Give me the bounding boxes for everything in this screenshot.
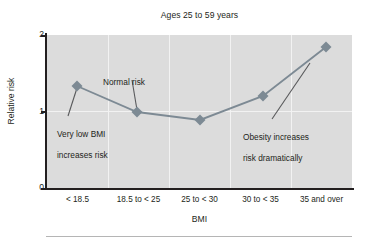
plot-area [47, 35, 352, 188]
gridline-y-1 [47, 111, 352, 112]
annotation-very-low-bmi: Very low BMI increases risk [57, 118, 137, 160]
chart-title: Ages 25 to 59 years [47, 10, 352, 20]
annotation-normal-text: Normal risk [103, 77, 145, 87]
annotation-obesity-line2: risk dramatically [243, 153, 302, 163]
x-tick-label-4: 30 to < 35 [230, 195, 291, 204]
y-tick-label-1: 1 [28, 106, 44, 116]
y-tick-label-0: 0 [28, 182, 44, 192]
figure-bottom-rule [46, 236, 352, 237]
x-tick-label-5: 35 and over [291, 195, 352, 204]
y-tick-label-2: 2 [28, 29, 44, 39]
x-axis-line [45, 188, 354, 190]
x-tick-label-2: 18.5 to < 25 [108, 195, 169, 204]
annotation-obesity: Obesity increases risk dramatically [243, 121, 348, 163]
gridline-x-3 [230, 35, 231, 188]
x-tick-label-1: < 18.5 [47, 195, 108, 204]
annotation-normal-risk: Normal risk [103, 66, 173, 87]
gridline-x-2 [169, 35, 170, 188]
annotation-obesity-line1: Obesity increases [243, 132, 309, 142]
gridline-x-4 [291, 35, 292, 188]
annotation-very-low-line1: Very low BMI [57, 129, 105, 139]
annotation-very-low-line2: increases risk [57, 150, 108, 160]
x-tick-label-3: 25 to < 30 [169, 195, 230, 204]
chart-figure: Ages 25 to 59 years 2 1 0 Relative risk [0, 0, 372, 246]
x-axis-title: BMI [47, 214, 352, 224]
gridline-x-1 [108, 35, 109, 188]
y-axis-title: Relative risk [6, 61, 16, 141]
